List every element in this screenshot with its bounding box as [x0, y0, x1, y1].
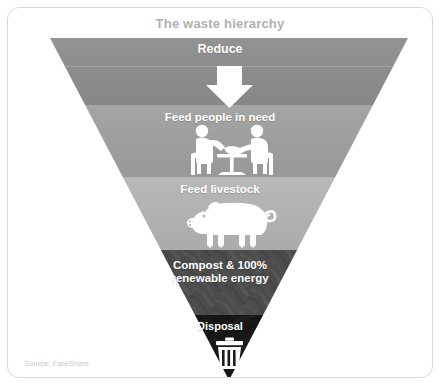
source-note: Source: FareShare — [24, 359, 89, 368]
waste-hierarchy-card: The waste hierarchy — [7, 7, 433, 378]
screenshot-root: The waste hierarchy — [0, 0, 442, 387]
funnel-svg — [15, 15, 433, 378]
funnel-band-feed-livestock — [15, 177, 433, 250]
funnel-band-reduce — [15, 35, 433, 105]
funnel-band-compost — [15, 250, 433, 315]
funnel-band-disposal — [15, 315, 433, 378]
funnel-band-feed-people — [15, 105, 433, 177]
waste-hierarchy-funnel — [15, 15, 433, 378]
band-separator-line — [15, 66, 433, 67]
